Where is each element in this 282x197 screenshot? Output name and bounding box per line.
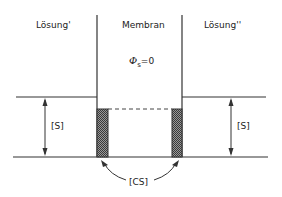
left-complex-bar <box>97 109 108 157</box>
left-complex-pointer-arrow-icon <box>101 160 126 180</box>
phi-symbol: Φ <box>129 55 137 66</box>
left-solution-label: Lösung' <box>36 21 71 30</box>
right-complex-pointer-arrow-icon <box>154 160 179 180</box>
membrane-diagram: Lösung' Membran Lösung'' Φs=0 [S] [S] [C… <box>0 0 282 197</box>
right-concentration-label: [S] <box>237 122 250 131</box>
membrane-label: Membran <box>122 21 165 30</box>
phi-value: =0 <box>141 56 154 66</box>
right-solution-label: Lösung'' <box>204 21 241 30</box>
membrane-potential-label: Φs=0 <box>129 56 154 69</box>
complex-concentration-label: [CS] <box>129 178 148 187</box>
right-complex-bar <box>172 109 182 157</box>
left-concentration-label: [S] <box>51 122 64 131</box>
right-concentration-arrow-icon <box>229 98 234 156</box>
left-concentration-arrow-icon <box>43 98 48 156</box>
